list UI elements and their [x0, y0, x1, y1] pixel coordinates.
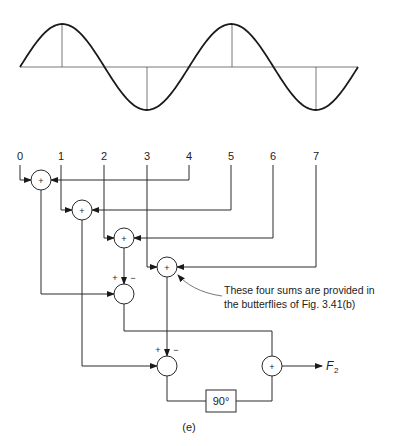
subtractors: +−+−	[112, 273, 178, 376]
wire-input-2	[104, 165, 114, 238]
annotation-line-2: the butterflies of Fig. 3.41(b)	[224, 298, 355, 310]
annotation-line-1: These four sums are provided in	[224, 284, 375, 296]
final-adder-symbol: +	[269, 362, 274, 372]
input-label-5: 5	[228, 150, 234, 162]
wire-input-5	[92, 165, 231, 210]
wire-input-0	[20, 165, 31, 180]
wire-input-1	[61, 165, 72, 210]
subtractor-bottom-minus-sign: −	[173, 345, 178, 355]
input-label-7: 7	[313, 150, 319, 162]
phase-box-label: 90°	[213, 395, 230, 407]
wire-subbottom-out	[167, 376, 206, 401]
annotation: These four sums are provided in the butt…	[224, 284, 375, 310]
wire-input-7	[177, 165, 316, 267]
input-label-3: 3	[144, 150, 150, 162]
annotation-pointer	[178, 275, 222, 296]
input-label-6: 6	[270, 150, 276, 162]
subtractor-mid-minus-sign: −	[130, 273, 135, 283]
output-label-subscript: 2	[334, 366, 339, 375]
adder-2-symbol: +	[121, 234, 126, 244]
adder-1-symbol: +	[79, 206, 84, 216]
wire-submid-out	[124, 304, 272, 356]
phase-shift-box: 90°	[206, 390, 236, 412]
input-label-1: 1	[58, 150, 64, 162]
output-label-main: F	[326, 359, 334, 373]
adder-3: +	[157, 257, 177, 277]
input-label-4: 4	[186, 150, 192, 162]
final-adder: +	[262, 356, 282, 376]
subtractor-mid-circle	[114, 284, 134, 304]
subtractor-mid-plus-sign: +	[112, 273, 117, 283]
wire-phase-out	[236, 376, 272, 401]
output-label: F 2	[326, 359, 339, 375]
adder-1: +	[72, 200, 92, 220]
figure-caption: (e)	[182, 421, 195, 433]
input-label-0: 0	[17, 150, 23, 162]
subtractor-bottom-circle	[157, 356, 177, 376]
adder-3-symbol: +	[164, 263, 169, 273]
wire-input-4	[51, 165, 189, 180]
adder-0: +	[31, 170, 51, 190]
input-label-2: 2	[101, 150, 107, 162]
sine-waveform	[20, 24, 358, 110]
wire-input-6	[134, 165, 273, 238]
subtractor-bottom-plus-sign: +	[155, 345, 160, 355]
input-labels: 01234567	[17, 150, 319, 162]
diagram-canvas: 01234567 ++++ +	[0, 0, 393, 446]
adder-0-symbol: +	[38, 176, 43, 186]
adder-2: +	[114, 228, 134, 248]
